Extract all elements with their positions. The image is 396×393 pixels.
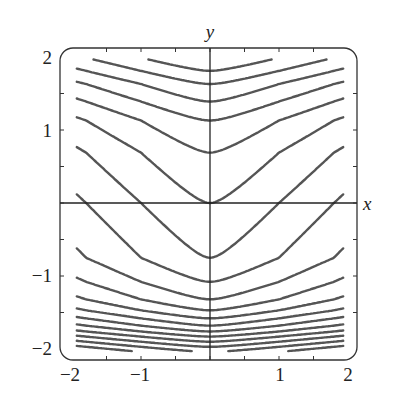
y-tick-label: −2 xyxy=(32,338,52,359)
y-tick-label: 1 xyxy=(43,120,53,141)
x-tick-label: −1 xyxy=(130,364,150,385)
chart: −2 −1 1 2 2 1 −1 −2 y x xyxy=(0,0,396,393)
solution-curve xyxy=(288,346,343,351)
solution-curve xyxy=(77,341,192,351)
y-tick-label: 2 xyxy=(43,47,53,68)
solution-curve xyxy=(77,346,132,351)
x-tick-label: −2 xyxy=(60,364,80,385)
y-tick-label: −1 xyxy=(32,265,52,286)
x-tick-label: 2 xyxy=(343,364,353,385)
y-axis-label: y xyxy=(204,21,215,42)
solution-curve xyxy=(228,341,343,351)
x-tick-label: 1 xyxy=(275,364,285,385)
x-axis-label: x xyxy=(362,193,372,214)
